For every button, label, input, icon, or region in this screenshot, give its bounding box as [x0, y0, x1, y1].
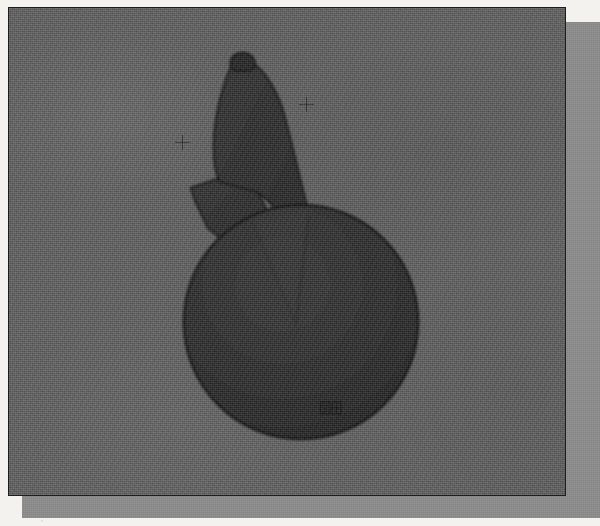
seal-label: Stamp impression [0, 0, 1, 1]
radiograph-plate [8, 7, 566, 496]
apex-nub-shape [230, 53, 255, 71]
subject-label: object-silhouette [0, 0, 1, 1]
object-silhouette [9, 8, 566, 496]
scan-page: Grayscale radiographic plate showing a d… [0, 0, 600, 526]
fiducial-right-label: Registration cross (right) [0, 0, 1, 1]
fiducial-left-label: Registration cross (left) [0, 0, 1, 1]
plate-caption: Grayscale radiographic plate showing a d… [0, 0, 1, 1]
